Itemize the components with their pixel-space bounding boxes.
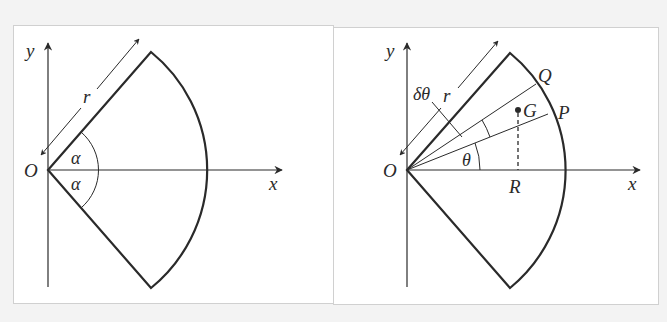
left-origin-label: O <box>24 160 38 181</box>
centroid-label: G <box>523 100 537 121</box>
point-p-label: P <box>557 102 570 123</box>
sector-centroid-figure: y x O r α α y x O r δθ θ Q <box>0 0 667 322</box>
left-alpha-lower-label: α <box>71 174 81 194</box>
centroid-point <box>515 107 521 113</box>
left-x-label: x <box>268 173 278 194</box>
delta-theta-leader <box>432 102 462 137</box>
foot-r-label: R <box>508 176 521 197</box>
left-alpha-upper-label: α <box>71 148 81 168</box>
right-x-label: x <box>627 173 637 194</box>
left-diagram: y x O r α α <box>24 39 282 288</box>
theta-arc <box>475 143 480 170</box>
right-r-label: r <box>443 85 451 106</box>
point-q-label: Q <box>538 65 552 86</box>
delta-theta-arc <box>482 120 490 137</box>
left-y-label: y <box>24 40 35 61</box>
left-r-arrow-upper <box>97 39 139 89</box>
right-diagram: y x O r δθ θ Q P G R <box>383 40 640 288</box>
right-r-arrow-lower <box>400 108 441 155</box>
right-y-label: y <box>384 40 395 61</box>
left-r-label: r <box>83 86 91 107</box>
theta-label: θ <box>462 150 471 170</box>
right-r-arrow-upper <box>458 41 498 88</box>
delta-theta-label: δθ <box>413 84 430 104</box>
right-origin-label: O <box>383 160 397 181</box>
